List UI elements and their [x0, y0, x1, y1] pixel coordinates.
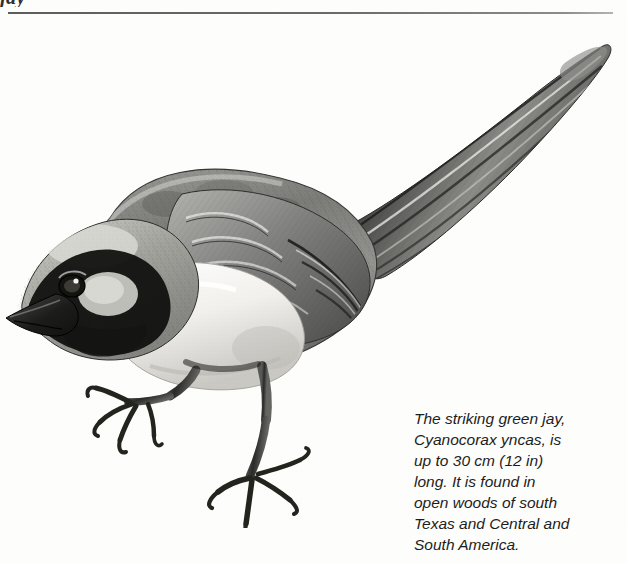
caption-line: long. It is found in — [414, 471, 620, 492]
figure-caption: The striking green jay, Cyanocorax yncas… — [414, 408, 620, 555]
book-page: jay — [0, 0, 627, 564]
caption-line: up to 30 cm (12 in) — [414, 450, 620, 471]
caption-line: The striking green jay, — [414, 408, 620, 429]
page-header-clipped: jay — [0, 0, 120, 7]
caption-line: Cyanocorax yncas, is — [414, 429, 620, 450]
caption-line: Texas and Central and — [414, 513, 620, 534]
header-divider-rule — [8, 12, 613, 14]
caption-line: open woods of south — [414, 492, 620, 513]
caption-line: South America. — [414, 534, 620, 555]
page-header-text: jay — [0, 0, 120, 7]
